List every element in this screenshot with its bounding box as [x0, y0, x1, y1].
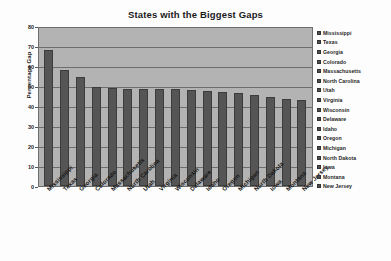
legend-item[interactable]: Virginia: [317, 95, 389, 105]
legend-item-label: Montana: [323, 174, 345, 180]
legend-item-label: Virginia: [323, 97, 342, 103]
bar[interactable]: [76, 77, 85, 186]
legend-swatch-icon: [317, 156, 321, 160]
bar[interactable]: [171, 89, 180, 186]
legend-swatch-icon: [317, 108, 321, 112]
legend-item[interactable]: North Carolina: [317, 76, 389, 86]
x-axis-labels: MississippiTexasGeorgiaColoradoMassachus…: [38, 188, 313, 258]
legend-item-label: New Jersey: [323, 183, 352, 189]
legend-swatch-icon: [317, 50, 321, 54]
legend-swatch-icon: [317, 117, 321, 121]
legend-item-label: Iowa: [323, 164, 335, 170]
legend-item-label: Massachusetts: [323, 68, 361, 74]
legend-item-label: Michigan: [323, 145, 346, 151]
y-axis-tick-label: 70: [14, 44, 34, 50]
legend-item[interactable]: Colorado: [317, 57, 389, 67]
legend-item-label: Oregon: [323, 135, 342, 141]
bar[interactable]: [155, 89, 164, 186]
plot-area: [38, 27, 313, 187]
legend-item[interactable]: Massachusetts: [317, 66, 389, 76]
legend-item[interactable]: Texas: [317, 38, 389, 48]
legend-item[interactable]: Iowa: [317, 162, 389, 172]
legend-swatch-icon: [317, 31, 321, 35]
legend-swatch-icon: [317, 127, 321, 131]
legend-item[interactable]: Utah: [317, 86, 389, 96]
legend-item[interactable]: North Dakota: [317, 153, 389, 163]
bar[interactable]: [218, 92, 227, 186]
legend-swatch-icon: [317, 88, 321, 92]
legend-item[interactable]: Montana: [317, 172, 389, 182]
legend-swatch-icon: [317, 79, 321, 83]
legend-item[interactable]: Mississippi: [317, 28, 389, 38]
legend-item-label: Colorado: [323, 59, 346, 65]
legend-item[interactable]: Michigan: [317, 143, 389, 153]
legend-swatch-icon: [317, 175, 321, 179]
chart-legend: MississippiTexasGeorgiaColoradoMassachus…: [317, 28, 389, 191]
legend-swatch-icon: [317, 146, 321, 150]
y-axis-title: Percentage Gap: [26, 40, 32, 110]
y-axis-tick-label: 40: [14, 104, 34, 110]
y-axis-tick-label: 20: [14, 144, 34, 150]
legend-item[interactable]: Wisconsin: [317, 105, 389, 115]
y-axis-tick-label: 10: [14, 164, 34, 170]
legend-item[interactable]: Idaho: [317, 124, 389, 134]
legend-swatch-icon: [317, 98, 321, 102]
legend-item[interactable]: Delaware: [317, 114, 389, 124]
legend-item-label: North Carolina: [323, 78, 360, 84]
legend-item-label: Idaho: [323, 126, 337, 132]
y-axis-tick-label: 0: [14, 184, 34, 190]
y-axis-tick-label: 60: [14, 64, 34, 70]
legend-swatch-icon: [317, 69, 321, 73]
bar[interactable]: [282, 99, 291, 186]
legend-item[interactable]: New Jersey: [317, 182, 389, 192]
legend-swatch-icon: [317, 60, 321, 64]
legend-item-label: Utah: [323, 87, 335, 93]
legend-item-label: Texas: [323, 39, 338, 45]
legend-item-label: Mississippi: [323, 30, 352, 36]
legend-item[interactable]: Oregon: [317, 134, 389, 144]
legend-item-label: Delaware: [323, 116, 346, 122]
legend-item[interactable]: Georgia: [317, 47, 389, 57]
y-axis-tick-label: 50: [14, 84, 34, 90]
legend-item-label: Wisconsin: [323, 107, 349, 113]
legend-swatch-icon: [317, 136, 321, 140]
chart-figure: States with the Biggest Gaps Percentage …: [0, 0, 391, 261]
legend-item-label: Georgia: [323, 49, 343, 55]
y-axis-tick-label: 80: [14, 24, 34, 30]
chart-title: States with the Biggest Gaps: [0, 9, 391, 20]
legend-swatch-icon: [317, 184, 321, 188]
bars-group: [39, 28, 312, 186]
bar[interactable]: [44, 50, 53, 186]
legend-swatch-icon: [317, 40, 321, 44]
legend-item-label: North Dakota: [323, 155, 356, 161]
y-axis-tick-label: 30: [14, 124, 34, 130]
legend-swatch-icon: [317, 165, 321, 169]
